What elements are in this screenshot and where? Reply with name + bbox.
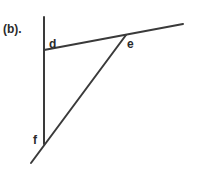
- geometry-diagram: (b). d e f: [0, 0, 197, 174]
- point-label-f: f: [33, 133, 38, 147]
- panel-label: (b).: [3, 22, 22, 36]
- line-ef-extended: [31, 35, 126, 163]
- point-label-d: d: [49, 37, 56, 51]
- line-de-extended: [44, 24, 183, 50]
- point-label-e: e: [127, 37, 134, 51]
